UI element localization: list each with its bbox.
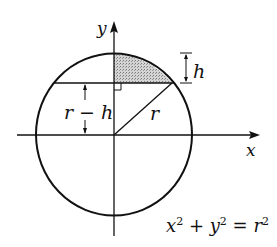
h-label: h (193, 60, 205, 82)
radius-label: r (150, 102, 161, 124)
rh-arrow-up-icon (83, 84, 87, 90)
y-axis-label: y (96, 18, 107, 38)
h-arrow-down-icon (184, 77, 188, 82)
rh-arrow-down-icon (83, 128, 87, 134)
radius-line (114, 83, 172, 135)
x-axis-label: x (246, 140, 256, 160)
circle-equation: x2 + y2 = r2 (166, 215, 269, 236)
r-minus-h-label: r − h (64, 101, 113, 123)
h-arrow-up-icon (184, 54, 188, 59)
right-angle-marker (114, 83, 121, 90)
diagram-canvas: y x h r − h r x2 + y2 = r2 (0, 0, 277, 247)
